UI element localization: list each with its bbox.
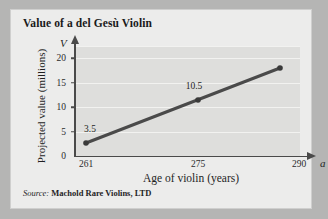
source-note: Source: Machold Rare Violins, LTD (23, 188, 151, 198)
chart-card: Value of a del Gesù Violin V a 20 15 10 … (11, 10, 311, 208)
x-axis-title: Age of violin (years) (74, 172, 308, 184)
source-label: Source: (23, 188, 49, 198)
y-axis-title: Projected value (millions) (35, 38, 47, 174)
data-point-label: 3.5 (84, 124, 96, 134)
x-axis-variable-symbol: a (320, 157, 326, 169)
figure-container: Value of a del Gesù Violin V a 20 15 10 … (0, 0, 328, 219)
data-point-label: 10.5 (186, 81, 203, 91)
source-text: Machold Rare Violins, LTD (51, 188, 151, 198)
